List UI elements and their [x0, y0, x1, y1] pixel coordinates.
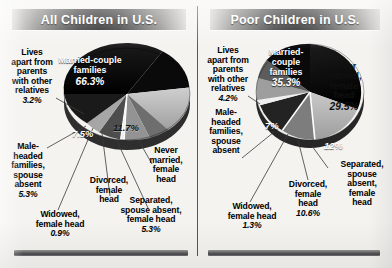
label-separated-all: Separated,spouse absent,female head 5.3% — [110, 196, 192, 234]
label-lives-apart-poor-pct: 4.2% — [200, 94, 256, 104]
panel-title-all-children: All Children in U.S. — [41, 13, 158, 27]
pie-value-male-headed-poor: 7% — [265, 120, 279, 131]
label-never-married-all: Nevermarried,femalehead — [140, 146, 192, 184]
pie-value-separated-poor: 12% — [324, 140, 343, 151]
label-widowed-poor-pct: 1.3% — [214, 221, 290, 231]
pie-label-married-couple-poor-pct: 35.3% — [269, 78, 304, 88]
label-lives-apart-all: Livesapart fromparentswith otherrelative… — [4, 48, 60, 106]
panel-bottom-bar-poor — [208, 250, 380, 256]
pie-label-never-married-poor-pct: 29.5% — [327, 102, 362, 112]
panel-title-bar-all-children: All Children in U.S. — [12, 9, 186, 30]
label-separated-all-pct: 5.3% — [110, 225, 192, 235]
pie-value-divorced-all: 7.5% — [72, 128, 93, 139]
label-male-headed-all-pct: 5.3% — [2, 190, 54, 200]
pie-label-married-couple-all-pct: 66.3% — [58, 77, 121, 87]
label-male-headed-all: Male-headedfamilies,spouseabsent 5.3% — [2, 142, 54, 200]
label-widowed-all-pct: 0.9% — [24, 229, 96, 239]
pie-value-never-married-all: 11.7% — [113, 122, 139, 133]
pie-label-married-couple-poor: Married-couplefamilies 35.3% — [269, 48, 304, 88]
pie-label-married-couple-poor-text: Married-couplefamilies — [269, 47, 304, 77]
label-lives-apart-poor: Livesapart fromparentswith otherrelative… — [200, 46, 256, 104]
label-lives-apart-all-pct: 3.2% — [4, 96, 60, 106]
label-widowed-poor: Widowed,female head 1.3% — [214, 202, 290, 231]
label-divorced-poor-pct: 10.6% — [280, 209, 336, 219]
panel-divider — [197, 6, 198, 256]
panel-title-poor-children: Poor Children in U.S. — [230, 13, 359, 27]
panel-title-bar-poor-children: Poor Children in U.S. — [210, 9, 380, 30]
pie-label-married-couple-all: Married-couplefamilies 66.3% — [58, 56, 121, 86]
label-widowed-all: Widowed,female head 0.9% — [24, 210, 96, 239]
figure-root: All Children in U.S. — [0, 0, 392, 268]
panel-bottom-bar-all — [14, 250, 188, 256]
pie-label-married-couple-all-text: Married-couplefamilies — [58, 55, 121, 75]
pie-label-never-married-poor-text: Nevermarried,femalehead — [327, 61, 362, 100]
label-male-headed-poor: Male-headedfamilies,spouseabsent — [200, 108, 252, 156]
panel-all-children: All Children in U.S. — [0, 0, 198, 268]
pie-label-never-married-poor: Nevermarried,femalehead 29.5% — [327, 62, 362, 112]
label-divorced-poor: Divorced,femalehead 10.6% — [280, 180, 336, 218]
panel-poor-children: Poor Children in U.S. — [200, 0, 392, 268]
label-separated-poor: Separated,spouseabsent,femalehead — [334, 160, 390, 208]
